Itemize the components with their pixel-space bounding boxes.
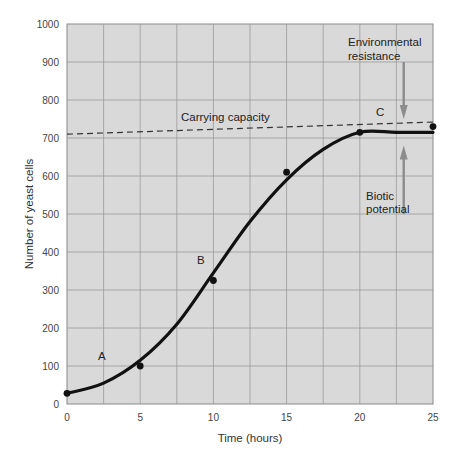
y-tick-label: 100 <box>42 361 59 372</box>
phase-label-a: A <box>98 350 106 362</box>
y-tick-label: 400 <box>42 247 59 258</box>
x-tick-label: 20 <box>354 412 366 423</box>
x-tick-label: 0 <box>64 412 70 423</box>
environmental-resistance-label-line2: resistance <box>348 50 400 62</box>
y-tick-label: 800 <box>42 95 59 106</box>
x-axis-label: Time (hours) <box>218 432 283 444</box>
y-tick-label: 1000 <box>37 19 60 30</box>
y-tick-label: 300 <box>42 285 59 296</box>
environmental-resistance-label-line1: Environmental <box>348 36 422 48</box>
data-point <box>137 363 144 370</box>
y-tick-label: 0 <box>53 399 59 410</box>
data-point <box>356 129 363 136</box>
x-tick-label: 10 <box>208 412 220 423</box>
y-tick-label: 900 <box>42 57 59 68</box>
data-point <box>283 169 290 176</box>
phase-label-b: B <box>197 254 205 266</box>
data-point <box>64 390 71 397</box>
x-axis-ticks: 0510152025 <box>64 412 439 423</box>
data-point <box>210 277 217 284</box>
y-tick-label: 200 <box>42 323 59 334</box>
x-tick-label: 25 <box>427 412 439 423</box>
biotic-potential-label-line2: potential <box>366 203 409 215</box>
y-tick-label: 500 <box>42 209 59 220</box>
y-tick-label: 600 <box>42 171 59 182</box>
y-axis-ticks: 01002003004005006007008009001000 <box>37 19 60 410</box>
carrying-capacity-label: Carrying capacity <box>181 111 270 123</box>
biotic-potential-label-line1: Biotic <box>366 190 394 202</box>
yeast-growth-chart: 01002003004005006007008009001000 0510152… <box>0 0 452 459</box>
x-tick-label: 5 <box>137 412 143 423</box>
data-point <box>430 123 437 130</box>
phase-label-c: C <box>376 106 384 118</box>
x-tick-label: 15 <box>281 412 293 423</box>
y-axis-label: Number of yeast cells <box>23 158 35 269</box>
y-tick-label: 700 <box>42 133 59 144</box>
